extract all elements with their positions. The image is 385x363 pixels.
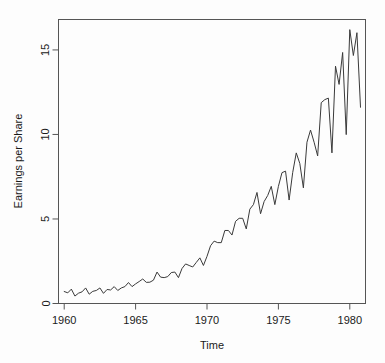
figure-background <box>0 0 385 363</box>
x-tick-label: 1980 <box>338 314 362 326</box>
chart-figure: 19601965197019751980 051015 Time Earning… <box>0 0 385 363</box>
y-tick-label: 10 <box>40 128 52 140</box>
x-tick-label: 1975 <box>266 314 290 326</box>
x-axis-label: Time <box>200 339 224 351</box>
chart-canvas: 19601965197019751980 051015 Time Earning… <box>0 0 385 363</box>
x-tick-label: 1970 <box>195 314 219 326</box>
y-tick-label: 0 <box>40 300 52 306</box>
x-tick-label: 1965 <box>123 314 147 326</box>
y-tick-label: 15 <box>40 44 52 56</box>
y-axis-label: Earnings per Share <box>12 114 24 209</box>
x-tick-label: 1960 <box>52 314 76 326</box>
y-tick-label: 5 <box>40 216 52 222</box>
